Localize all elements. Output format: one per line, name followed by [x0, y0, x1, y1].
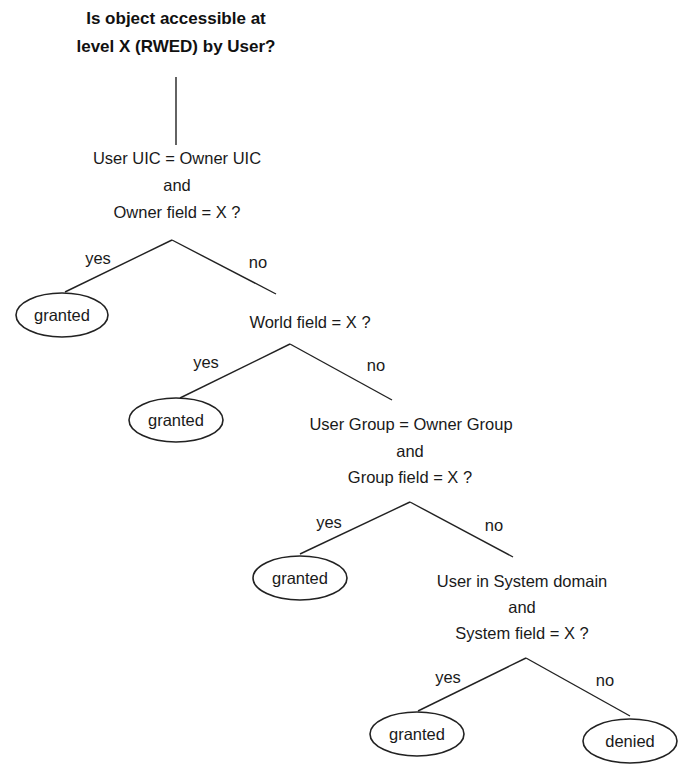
decision-owner-line-3: Owner field = X ? [113, 203, 240, 221]
decision-group-line-3: Group field = X ? [348, 468, 472, 486]
no-label-4: no [596, 671, 614, 689]
granted-label-4: granted [389, 725, 445, 743]
outcome-granted-1: granted [16, 293, 108, 337]
no-edge-4 [526, 658, 630, 716]
decision-owner: User UIC = Owner UIC and Owner field = X… [93, 149, 261, 221]
access-decision-tree: Is object accessible at level X (RWED) b… [0, 0, 698, 773]
yes-edge-1 [65, 240, 172, 292]
title-line-1: Is object accessible at [86, 9, 266, 28]
yes-label-1: yes [85, 249, 111, 267]
decision-owner-line-1: User UIC = Owner UIC [93, 149, 261, 167]
yes-label-2: yes [193, 353, 219, 371]
decision-owner-line-2: and [163, 176, 191, 194]
title-line-2: level X (RWED) by User? [76, 37, 275, 56]
outcome-denied: denied [583, 719, 677, 763]
yes-label-4: yes [435, 668, 461, 686]
no-label-3: no [485, 516, 503, 534]
decision-system-line-3: System field = X ? [455, 624, 588, 642]
no-label-2: no [367, 356, 385, 374]
decision-world: World field = X ? [249, 313, 370, 331]
no-label-1: no [249, 253, 267, 271]
granted-label-1: granted [34, 306, 90, 324]
outcome-granted-4: granted [370, 712, 464, 756]
denied-label: denied [605, 732, 655, 750]
outcome-granted-2: granted [129, 398, 223, 442]
decision-group-line-2: and [396, 442, 424, 460]
outcome-granted-3: granted [253, 556, 347, 600]
decision-group: User Group = Owner Group and Group field… [309, 415, 512, 486]
decision-system-line-1: User in System domain [437, 572, 608, 590]
decision-group-line-1: User Group = Owner Group [309, 415, 512, 433]
decision-system: User in System domain and System field =… [437, 572, 608, 642]
decision-system-line-2: and [508, 598, 536, 616]
yes-label-3: yes [316, 513, 342, 531]
granted-label-3: granted [272, 569, 328, 587]
granted-label-2: granted [148, 411, 204, 429]
